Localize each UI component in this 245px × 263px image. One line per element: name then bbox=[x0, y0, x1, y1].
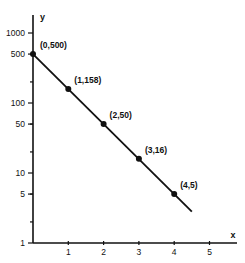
log-scale-line-chart: 123451510501005001000 xy (0,500)(1,158)(… bbox=[0, 0, 245, 263]
y-tick-label: 5 bbox=[20, 189, 25, 199]
x-tick-label: 3 bbox=[137, 247, 142, 257]
y-tick-label: 1 bbox=[20, 238, 25, 248]
point-label: (3,16) bbox=[145, 145, 167, 155]
point-label: (1,158) bbox=[74, 75, 101, 85]
data-point bbox=[30, 51, 36, 57]
point-labels: (0,500)(1,158)(2,50)(3,16)(4,5) bbox=[40, 40, 198, 190]
x-tick-label: 5 bbox=[207, 247, 212, 257]
axis-labels: xy bbox=[40, 12, 236, 240]
y-axis-label: y bbox=[40, 12, 45, 22]
x-axis-label: x bbox=[230, 230, 235, 240]
data-line bbox=[33, 54, 192, 212]
y-tick-label: 100 bbox=[11, 98, 25, 108]
x-tick-label: 1 bbox=[66, 247, 71, 257]
tick-labels: 123451510501005001000 bbox=[6, 28, 212, 257]
point-label: (2,50) bbox=[110, 110, 132, 120]
y-tick-label: 500 bbox=[11, 49, 25, 59]
y-tick-label: 10 bbox=[16, 168, 26, 178]
point-label: (0,500) bbox=[40, 40, 67, 50]
trend-line bbox=[33, 54, 192, 212]
y-tick-label: 1000 bbox=[6, 28, 25, 38]
data-point bbox=[171, 191, 177, 197]
x-tick-label: 2 bbox=[101, 247, 106, 257]
x-tick-label: 4 bbox=[172, 247, 177, 257]
point-label: (4,5) bbox=[180, 180, 198, 190]
data-point bbox=[136, 156, 142, 162]
data-point bbox=[65, 86, 71, 92]
data-point bbox=[101, 121, 107, 127]
y-tick-label: 50 bbox=[16, 119, 26, 129]
